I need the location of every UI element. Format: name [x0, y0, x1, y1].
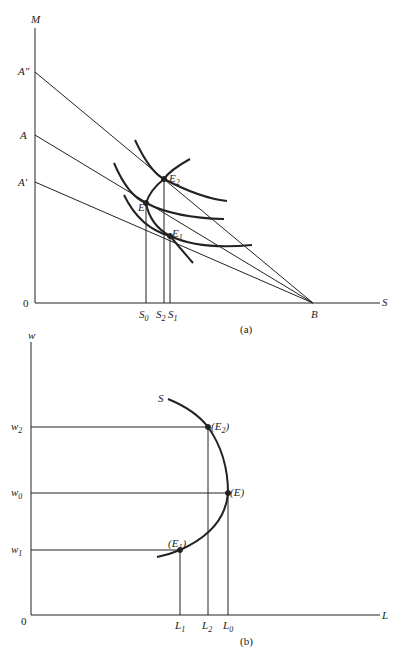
intercept-a-double-prime: A" [18, 66, 29, 77]
tick-w1: w1 [11, 544, 22, 558]
intercept-a-prime: A' [18, 177, 27, 188]
point-e2-b [206, 425, 211, 430]
tick-w0: w0 [11, 487, 22, 501]
tick-l1: L1 [175, 620, 185, 634]
indifference-curve-top [135, 140, 227, 201]
axis-label-l: L [382, 610, 388, 621]
budget-line-a1 [35, 182, 313, 303]
label-pe: (E) [230, 487, 244, 498]
label-e2: E2 [169, 173, 180, 187]
tick-l2: L2 [202, 620, 212, 634]
axis-label-s: S [382, 297, 388, 308]
caption-b: (b) [240, 636, 253, 647]
label-pe2: (E2) [211, 421, 229, 435]
tick-s2: S2 [156, 309, 166, 323]
origin-b: 0 [21, 616, 27, 627]
panel-b [31, 342, 380, 615]
intercept-b: B [311, 309, 318, 320]
panel-a [35, 28, 380, 303]
axis-label-w: w [28, 330, 35, 341]
label-e: E [138, 202, 145, 213]
tick-s0: S0 [139, 309, 149, 323]
axis-label-m: M [31, 14, 40, 25]
caption-a: (a) [240, 324, 252, 335]
diagram-canvas [0, 0, 400, 661]
curve-label-s: S [158, 393, 164, 404]
intercept-a: A [20, 130, 27, 141]
tick-w2: w2 [11, 421, 22, 435]
budget-line-a2 [35, 72, 313, 303]
tick-l0: L0 [223, 620, 233, 634]
label-pe1: (E1) [168, 538, 186, 552]
origin-a: 0 [23, 298, 29, 309]
budget-line-a [35, 135, 313, 303]
tick-s1: S1 [168, 309, 178, 323]
label-e1: E1 [172, 228, 183, 242]
point-e2 [162, 177, 167, 182]
